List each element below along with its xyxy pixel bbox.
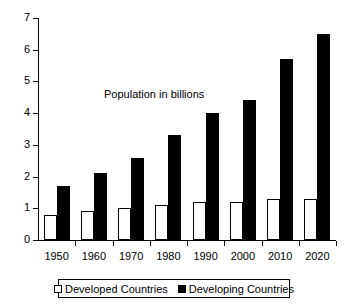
bar-developed-2010 — [267, 199, 280, 240]
bar-developed-2000 — [230, 202, 243, 240]
x-axis-tick — [262, 241, 263, 246]
bar-developing-2010 — [280, 59, 293, 240]
x-axis-tick-label: 2020 — [299, 250, 335, 262]
x-axis-tick — [187, 241, 188, 246]
y-axis-tick-label: 7 — [4, 12, 30, 23]
legend-entry-developing: Developing Countries — [178, 283, 294, 295]
bar-developed-1960 — [81, 211, 94, 240]
x-axis-tick-label: 1980 — [150, 250, 186, 262]
bar-developing-2020 — [317, 34, 330, 240]
black-square-icon — [178, 285, 186, 293]
x-axis-tick — [224, 241, 225, 246]
x-axis-tick-label: 1970 — [113, 250, 149, 262]
plot-area — [38, 18, 336, 240]
x-axis-tick-label: 1950 — [39, 250, 75, 262]
x-axis-tick-label: 2000 — [225, 250, 261, 262]
bar-developing-1980 — [168, 135, 181, 240]
bar-developing-1950 — [57, 186, 70, 240]
bar-developed-1970 — [118, 208, 131, 240]
legend-label-developing: Developing Countries — [189, 283, 294, 295]
x-axis-tick-label: 1990 — [188, 250, 224, 262]
chart-title: Population in billions — [104, 88, 204, 101]
bar-developed-1980 — [155, 205, 168, 240]
x-axis-tick-label: 1960 — [76, 250, 112, 262]
y-axis-tick-label: 3 — [4, 139, 30, 150]
x-axis-tick — [113, 241, 114, 246]
bar-developed-1990 — [193, 202, 206, 240]
bar-developing-2000 — [243, 100, 256, 240]
x-axis-tick — [150, 241, 151, 246]
y-axis-tick-label: 5 — [4, 75, 30, 86]
y-axis-tick-label: 2 — [4, 171, 30, 182]
x-axis-tick — [336, 241, 337, 246]
population-bar-chart: 01234567 1950196019701980199020002010202… — [0, 0, 349, 307]
x-axis-tick — [299, 241, 300, 246]
legend-label-developed: Developed Countries — [65, 283, 168, 295]
white-square-icon — [54, 285, 62, 293]
x-axis-tick — [75, 241, 76, 246]
bar-developing-1960 — [94, 173, 107, 240]
y-axis-tick — [33, 240, 38, 241]
y-axis-tick-label: 1 — [4, 202, 30, 213]
x-axis-tick-label: 2010 — [262, 250, 298, 262]
legend-entry-developed: Developed Countries — [54, 283, 168, 295]
bar-developing-1990 — [206, 113, 219, 240]
y-axis-tick-label: 6 — [4, 44, 30, 55]
y-axis-tick-label: 0 — [4, 234, 30, 245]
bar-developing-1970 — [131, 158, 144, 240]
chart-legend: Developed Countries Developing Countries — [58, 279, 290, 298]
y-axis-tick-label: 4 — [4, 107, 30, 118]
bar-developed-1950 — [44, 215, 57, 240]
bar-developed-2020 — [304, 199, 317, 240]
